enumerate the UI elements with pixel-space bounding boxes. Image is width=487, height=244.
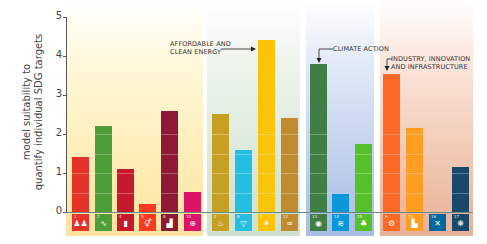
bar-gridline <box>452 173 469 174</box>
y-tick-label: 2 <box>48 128 62 138</box>
bar-gridline <box>117 173 134 174</box>
x-axis-baseline <box>66 212 473 213</box>
y-tick-label: 1 <box>48 167 62 177</box>
sdg-icon: 11▙ <box>406 214 423 231</box>
bar-gridline <box>281 134 298 135</box>
bar-gridline <box>452 193 469 194</box>
bar-gridline <box>258 154 275 155</box>
bar-gridline <box>355 173 372 174</box>
y-tick <box>63 95 67 96</box>
bar-gridline <box>95 193 112 194</box>
bar-gridline <box>95 173 112 174</box>
sdg-icon: 2∿ <box>95 214 112 231</box>
sdg-icon: 6▽ <box>235 214 252 231</box>
bar <box>117 169 134 212</box>
sdg-icon: 12∞ <box>281 214 298 231</box>
bar-gridline <box>161 173 178 174</box>
annotation-climate-text: CLIMATE ACTION <box>333 45 389 53</box>
bar-gridline <box>161 193 178 194</box>
y-tick <box>63 173 67 174</box>
bar <box>355 144 372 212</box>
bar-gridline <box>95 154 112 155</box>
annotation-industry-line2: AND INFRASTRUCTURE <box>391 63 470 71</box>
annotation-industry: INDUSTRY, INNOVATION AND INFRASTRUCTURE <box>391 55 470 71</box>
sdg-icon: 8▟ <box>161 214 178 231</box>
bar-gridline <box>212 173 229 174</box>
annotation-climate: CLIMATE ACTION <box>333 45 389 53</box>
bar <box>281 118 298 212</box>
bar-gridline <box>406 154 423 155</box>
bar-gridline <box>161 154 178 155</box>
sdg-icon: 2♨ <box>212 214 229 231</box>
bar-gridline <box>95 134 112 135</box>
bar-gridline <box>161 134 178 135</box>
bar-gridline <box>281 173 298 174</box>
bar-gridline <box>310 193 327 194</box>
annotation-industry-line1: INDUSTRY, INNOVATION <box>391 55 470 63</box>
bar <box>383 74 400 212</box>
y-tick <box>63 17 67 18</box>
bar-gridline <box>383 134 400 135</box>
bar-gridline <box>72 193 89 194</box>
y-axis-label-line1: model suitability to <box>21 27 33 197</box>
bar <box>95 126 112 212</box>
sdg-icon: 14≋ <box>332 214 349 231</box>
bar-gridline <box>406 134 423 135</box>
sdg-icon: 4▮ <box>117 214 134 231</box>
y-tick-label: 0 <box>48 206 62 216</box>
bar-gridline <box>406 173 423 174</box>
bar-gridline <box>212 134 229 135</box>
bar-gridline <box>212 154 229 155</box>
bar <box>452 167 469 212</box>
sdg-icon: 16✕ <box>429 214 446 231</box>
bar-gridline <box>235 173 252 174</box>
bar <box>258 40 275 212</box>
y-axis <box>66 17 67 213</box>
bar-gridline <box>310 134 327 135</box>
bar <box>161 111 178 212</box>
bar <box>212 114 229 212</box>
sdg-icon: 15♣ <box>355 214 372 231</box>
bar-gridline <box>235 193 252 194</box>
sdg-icon: 9⚙ <box>383 214 400 231</box>
bar <box>72 157 89 212</box>
bar-gridline <box>355 193 372 194</box>
sdg-icon: 5⚥ <box>139 214 156 231</box>
y-axis-label-line2: quantify individual SDG targets <box>33 27 45 197</box>
bar-gridline <box>310 154 327 155</box>
y-tick-label: 4 <box>48 50 62 60</box>
bar <box>235 150 252 212</box>
bar-gridline <box>235 154 252 155</box>
sdg-icon: 10⊕ <box>184 214 201 231</box>
bar-gridline <box>258 193 275 194</box>
y-axis-label: model suitability to quantify individual… <box>21 27 45 197</box>
sdg-icon: 1♟♟ <box>72 214 89 231</box>
bar <box>310 64 327 212</box>
y-tick-label: 5 <box>48 11 62 21</box>
y-tick <box>63 134 67 135</box>
sdg-icon: 7☀ <box>258 214 275 231</box>
bar-gridline <box>383 193 400 194</box>
arrow-down-icon <box>383 57 393 75</box>
bar-gridline <box>383 173 400 174</box>
bar-gridline <box>281 193 298 194</box>
sdg-icon: 17❋ <box>452 214 469 231</box>
sdg-icon: 13◉ <box>310 214 327 231</box>
arrow-down-icon <box>316 47 334 65</box>
bar-gridline <box>258 173 275 174</box>
arrow-right-icon <box>221 46 257 52</box>
bar-gridline <box>258 134 275 135</box>
y-tick-label: 3 <box>48 89 62 99</box>
bar-gridline <box>406 193 423 194</box>
bar <box>332 194 349 212</box>
bar <box>406 128 423 212</box>
bar <box>139 204 156 212</box>
y-tick <box>63 56 67 57</box>
bar-gridline <box>117 193 134 194</box>
bar-gridline <box>72 173 89 174</box>
bar-gridline <box>310 173 327 174</box>
bar-gridline <box>383 154 400 155</box>
bar <box>184 192 201 212</box>
bar-gridline <box>355 154 372 155</box>
bar-gridline <box>212 193 229 194</box>
